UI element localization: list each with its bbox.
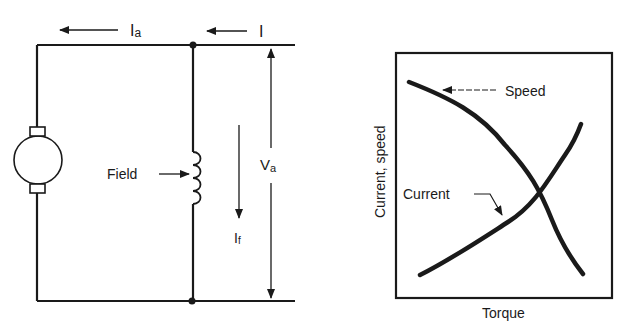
field-coil-icon (193, 152, 201, 204)
speed-curve-label: Speed (505, 83, 545, 99)
armature-current-label: Ia (130, 22, 141, 40)
field-label: Field (107, 166, 137, 182)
junction-dot-bottom (189, 298, 196, 305)
speed-curve (409, 82, 583, 274)
field-current-label: If (234, 230, 241, 246)
dc-motor-icon (14, 127, 62, 193)
current-pointer-arrow (474, 194, 502, 215)
shunt-motor-figure: Ia I Field If Va Speed Current Torque Cu… (0, 0, 631, 333)
characteristic-graph: Speed Current Torque Current, speed (372, 53, 612, 321)
current-curve-label: Current (403, 186, 450, 202)
line-current-label: I (259, 23, 263, 40)
x-axis-label: Torque (482, 305, 525, 321)
y-axis-label: Current, speed (372, 125, 388, 218)
junction-dot-top (190, 42, 197, 49)
circuit-diagram (14, 42, 295, 305)
voltage-label: Va (260, 156, 277, 174)
